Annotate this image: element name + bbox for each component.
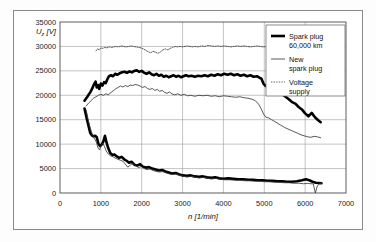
figure-container: 05000100001500020000250003000035000 0100… — [0, 0, 376, 242]
x-axis-title: n [1/min] — [188, 212, 219, 221]
x-tick-label: 5000 — [256, 199, 272, 208]
legend-label-line1: Voltage — [289, 78, 313, 87]
chart-canvas: 05000100001500020000250003000035000 0100… — [14, 11, 362, 229]
x-tick-label: 3000 — [174, 199, 190, 208]
y-tick-label: 10000 — [35, 140, 56, 149]
legend-label-line1: New — [289, 55, 304, 64]
x-tick-label: 1000 — [93, 199, 109, 208]
y-tick-label: 30000 — [35, 42, 56, 51]
figure-frame: 05000100001500020000250003000035000 0100… — [13, 10, 363, 230]
y-tick-label: 35000 — [35, 18, 56, 27]
x-tick-label: 0 — [58, 199, 62, 208]
legend-label-line2: supply — [289, 87, 310, 96]
legend-label-line2: spark plug — [289, 64, 322, 73]
y-tick-label: 5000 — [40, 164, 56, 173]
y-axis-tick-labels: 05000100001500020000250003000035000 — [35, 18, 56, 198]
y-axis-title: Uz [V] — [36, 27, 57, 37]
x-tick-label: 7000 — [338, 199, 354, 208]
x-tick-label: 4000 — [215, 199, 231, 208]
legend-label-line2: 60,000 km — [289, 41, 323, 50]
legend-label-line1: Spark plug — [289, 32, 323, 41]
x-tick-label: 2000 — [133, 199, 149, 208]
y-tick-label: 25000 — [35, 66, 56, 75]
x-tick-label: 6000 — [297, 199, 313, 208]
y-tick-label: 20000 — [35, 91, 56, 100]
y-tick-label: 15000 — [35, 115, 56, 124]
y-tick-label: 0 — [52, 189, 56, 198]
chart-legend: Spark plug60,000 kmNewspark plugVoltages… — [266, 25, 345, 96]
x-axis-tick-labels: 01000200030004000500060007000 — [58, 199, 354, 208]
